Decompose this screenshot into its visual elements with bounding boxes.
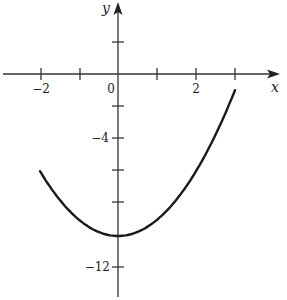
x-tick-label-neg2: −2: [32, 82, 50, 96]
x-tick-label-2: 2: [192, 82, 200, 96]
y-tick-label-neg12: −12: [85, 260, 110, 274]
y-axis-label: y: [101, 0, 111, 16]
graph-svg: −2 0 2 −4 −12 x y: [0, 0, 287, 300]
y-tick-label-neg4: −4: [91, 131, 109, 145]
origin-label: 0: [107, 82, 115, 96]
function-graph: −2 0 2 −4 −12 x y: [0, 0, 287, 300]
x-axis-label: x: [271, 79, 279, 95]
parabola-curve: [40, 90, 235, 236]
